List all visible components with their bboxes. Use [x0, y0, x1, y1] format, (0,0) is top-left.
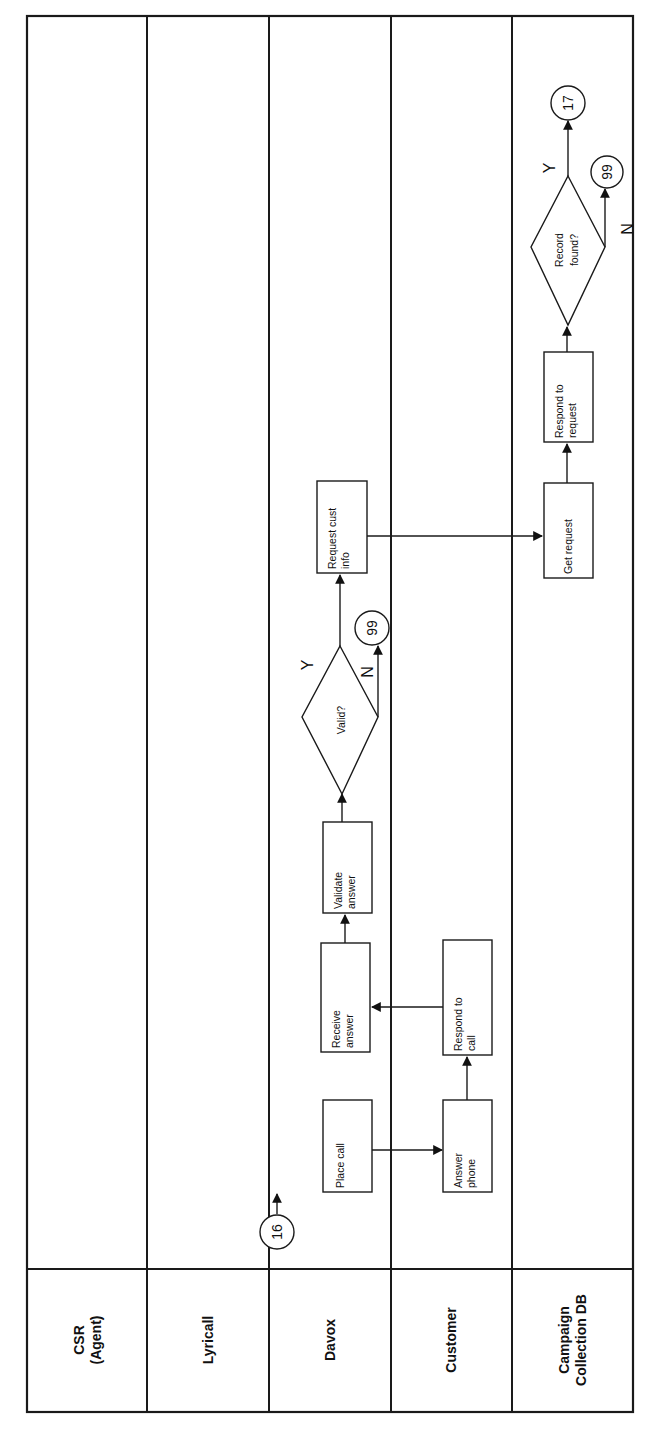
lane-label: Campaign — [556, 1306, 572, 1374]
connector-label: 17 — [560, 95, 576, 111]
node-label: Request cust — [326, 508, 338, 569]
node-label: answer — [343, 1014, 355, 1048]
lane-label: CSR — [71, 1325, 87, 1355]
process-get-request: Get request — [544, 483, 593, 578]
node-label: Record — [553, 233, 565, 267]
decision-record-found: Record found? — [531, 176, 605, 325]
node-label: found? — [568, 234, 580, 266]
connector-label: 16 — [269, 1224, 285, 1240]
connector-label: 99 — [364, 620, 380, 636]
branch-label-no: N — [359, 666, 376, 678]
node-label: Get request — [562, 519, 574, 574]
connector-99-campaign: 99 — [591, 156, 623, 188]
node-label: Answer — [452, 1152, 464, 1188]
lane-label: Customer — [443, 1307, 459, 1373]
branch-label-yes: Y — [541, 162, 558, 173]
node-label: Respond to — [553, 384, 565, 438]
node-label: Respond to — [452, 997, 464, 1051]
lane-label: (Agent) — [88, 1316, 104, 1365]
lane-label: Davox — [322, 1319, 338, 1361]
node-label: info — [339, 552, 351, 569]
process-validate-answer: Validate answer — [323, 822, 372, 913]
lane-header-davox: Davox — [322, 1319, 338, 1361]
node-label: Validate — [332, 872, 344, 909]
process-request-cust-info: Request cust info — [317, 481, 367, 573]
lane-header-customer: Customer — [443, 1307, 459, 1373]
process-answer-phone: Answer phone — [443, 1100, 492, 1192]
process-receive-answer: Receive answer — [321, 943, 370, 1052]
process-respond-to-request: Respond to request — [544, 352, 593, 442]
connector-99-davox: 99 — [355, 611, 389, 645]
swimlane-diagram: CSR (Agent) Lyricall Davox Customer Camp… — [0, 0, 655, 1441]
lane-header-campaign: Campaign Collection DB — [556, 1294, 589, 1386]
node-label: answer — [345, 875, 357, 909]
branch-label-yes: Y — [299, 659, 316, 670]
lane-header-lyricall: Lyricall — [200, 1316, 216, 1365]
node-label: call — [465, 1035, 477, 1051]
lane-header-csr: CSR (Agent) — [71, 1316, 104, 1365]
node-label: Place call — [334, 1143, 346, 1188]
connector-17: 17 — [551, 86, 585, 120]
lane-label: Collection DB — [573, 1294, 589, 1386]
process-place-call: Place call — [323, 1100, 372, 1192]
process-respond-to-call: Respond to call — [443, 940, 492, 1055]
connector-label: 99 — [599, 164, 615, 180]
node-label: Receive — [330, 1010, 342, 1048]
connector-16: 16 — [260, 1215, 294, 1249]
node-label: Valid? — [335, 706, 347, 735]
node-label: phone — [465, 1159, 477, 1188]
lane-label: Lyricall — [200, 1316, 216, 1365]
branch-label-no: N — [619, 223, 636, 235]
node-label: request — [566, 403, 578, 438]
